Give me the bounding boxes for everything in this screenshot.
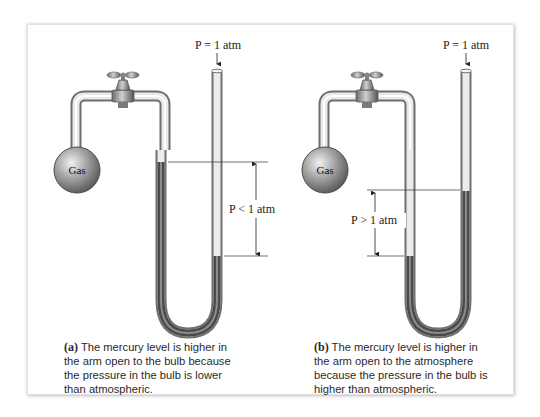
gas-label-a: Gas [68,164,85,176]
atm-label-b: P = 1 atm [443,38,490,52]
caption-b: (b) The mercury level is higher in the a… [314,340,494,396]
caption-a: (a) The mercury level is higher in the a… [64,340,244,396]
caption-tag-a: (a) [64,340,78,354]
pressure-label-a: P < 1 atm [229,202,276,216]
manometer-a: Gas P = 1 atm P < 1 atm [54,38,288,333]
gas-bulb-a: Gas [54,147,100,193]
caption-text-b: The mercury level is higher in the arm o… [314,341,488,395]
caption-text-a: The mercury level is higher in the arm o… [64,341,231,395]
caption-tag-b: (b) [314,340,329,354]
atm-label-a: P = 1 atm [195,38,242,52]
manometer-b: Gas P = 1 atm P > 1 atm [302,38,490,333]
stopcock-icon-a [107,72,139,108]
gas-label-b: Gas [316,164,333,176]
gas-bulb-b: Gas [302,147,348,193]
stopcock-icon-b [351,72,383,108]
pressure-label-b: P > 1 atm [351,213,398,227]
